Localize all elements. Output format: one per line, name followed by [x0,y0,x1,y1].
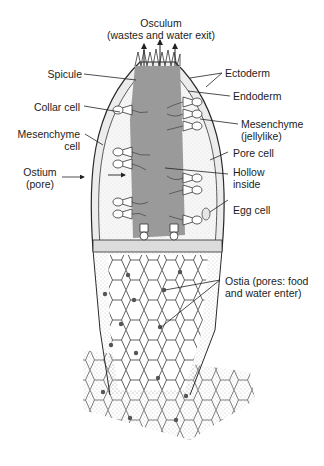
label-mesenchyme-jellylike: Mesenchyme (jellylike) [241,118,303,142]
label-ostia-desc: and water enter) [225,287,308,299]
label-ostia-title: Ostia (pores: food [225,275,308,287]
label-pore-cell: Pore cell [233,147,274,159]
label-ostium-title: Ostium [18,166,62,178]
label-hollow-desc: inside [233,178,265,190]
hollow-cavity [130,66,185,238]
label-spicule: Spicule [30,68,82,80]
label-mesenchyme-cell-desc: cell [6,140,80,152]
label-collar-cell: Collar cell [22,101,80,113]
label-ostium: Ostium (pore) [18,166,62,190]
egg-cell [202,208,210,220]
label-mesenchyme-cell: Mesenchyme cell [6,128,80,152]
label-mesenchyme-cell-title: Mesenchyme [6,128,80,140]
label-ectoderm: Ectoderm [225,67,270,79]
label-hollow-title: Hollow [233,166,265,178]
label-egg-cell: Egg cell [233,204,270,216]
label-hollow-inside: Hollow inside [233,166,265,190]
label-mesenchyme-jellylike-title: Mesenchyme [241,118,303,130]
label-osculum-title: Osculum [106,17,216,29]
label-osculum: Osculum (wastes and water exit) [106,17,216,41]
label-osculum-desc: (wastes and water exit) [106,29,216,41]
label-mesenchyme-jellylike-desc: (jellylike) [241,130,303,142]
label-ostia: Ostia (pores: food and water enter) [225,275,308,299]
label-ostium-desc: (pore) [18,178,62,190]
label-endoderm: Endoderm [233,90,281,102]
sponge-upper-body [91,40,224,252]
